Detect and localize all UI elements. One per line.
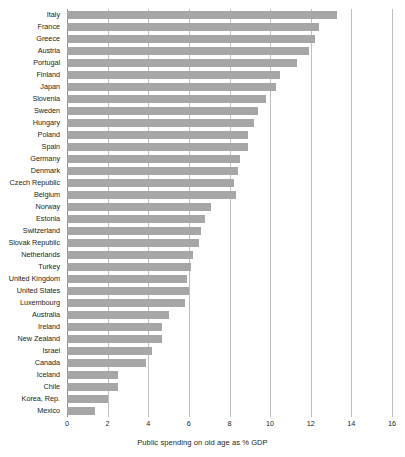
bar [67,335,162,343]
category-label: Norway [36,201,60,213]
bar [67,275,187,283]
x-tick-label: 2 [106,419,110,428]
bar [67,35,315,43]
bar [67,263,191,271]
bar [67,383,118,391]
bar [67,395,108,403]
category-label: Spain [42,141,60,153]
bar-row [67,69,392,81]
bar [67,83,276,91]
category-label: Belgium [34,189,60,201]
bar-row [67,297,392,309]
bar [67,59,297,67]
bar [67,407,95,415]
bar-row [67,9,392,21]
category-label: Luxembourg [20,297,60,309]
x-tick-label: 14 [347,419,355,428]
bar-row [67,201,392,213]
category-label: Korea, Rep. [22,393,60,405]
x-axis-title: Public spending on old age as % GDP [0,438,405,447]
category-label: Turkey [38,261,60,273]
category-label: United States [17,285,60,297]
category-label: Finland [36,69,60,81]
bar-chart: ItalyFranceGreeceAustriaPortugalFinlandJ… [0,0,405,457]
x-axis-ticks: 0246810121416 [67,417,392,433]
bar-row [67,105,392,117]
bar [67,95,266,103]
bar [67,131,248,139]
bar-row [67,405,392,417]
category-label: Chile [44,381,60,393]
category-label: Italy [47,9,60,21]
bar-row [67,321,392,333]
category-label: Iceland [37,369,60,381]
bar-row [67,33,392,45]
gridline-16 [392,9,393,417]
bar [67,347,152,355]
category-label: Hungary [33,117,60,129]
bar-row [67,381,392,393]
bar-row [67,249,392,261]
category-label: Denmark [31,165,60,177]
bar-row [67,189,392,201]
bar-row [67,237,392,249]
bar-row [67,21,392,33]
bar [67,47,309,55]
bar [67,323,162,331]
category-label: United Kingdom [9,273,60,285]
bar [67,215,205,223]
x-tick-label: 16 [388,419,396,428]
category-label: Czech Republic [10,177,60,189]
category-label: Greece [36,33,60,45]
x-tick-label: 0 [65,419,69,428]
bar-row [67,93,392,105]
category-label: Estonia [36,213,60,225]
x-tick-label: 12 [307,419,315,428]
category-label: Canada [35,357,60,369]
bar [67,191,236,199]
x-tick-label: 10 [266,419,274,428]
bar [67,251,193,259]
bar [67,119,254,127]
bar [67,23,319,31]
bar [67,299,185,307]
bar-row [67,225,392,237]
category-label: Sweden [34,105,60,117]
bar [67,71,280,79]
category-label: Portugal [33,57,60,69]
category-axis-labels: ItalyFranceGreeceAustriaPortugalFinlandJ… [0,9,64,417]
bar [67,167,238,175]
bar [67,371,118,379]
category-label: Australia [32,309,60,321]
bar [67,311,169,319]
category-label: Poland [38,129,60,141]
x-tick-label: 8 [227,419,231,428]
bar-row [67,261,392,273]
bar-row [67,333,392,345]
bar-row [67,141,392,153]
bar-row [67,369,392,381]
category-label: Austria [38,45,60,57]
bar-row [67,45,392,57]
category-label: Japan [40,81,60,93]
bar [67,143,248,151]
bar-row [67,117,392,129]
plot-area [67,9,392,417]
bar [67,203,211,211]
category-label: Israel [42,345,60,357]
bar-row [67,309,392,321]
bar-row [67,345,392,357]
bar [67,287,189,295]
bar [67,11,337,19]
bar-row [67,285,392,297]
bar-row [67,273,392,285]
x-tick-label: 6 [187,419,191,428]
bar-row [67,153,392,165]
bar-row [67,81,392,93]
bar-row [67,393,392,405]
bar-row [67,357,392,369]
bar [67,359,146,367]
category-label: Ireland [38,321,60,333]
bar [67,155,240,163]
category-label: Switzerland [23,225,60,237]
